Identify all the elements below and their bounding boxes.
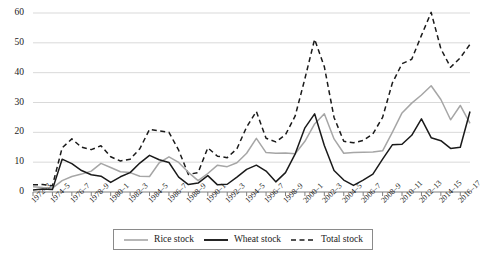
legend-item-wheat-stock: Wheat stock bbox=[203, 235, 281, 245]
line-solid-gray-icon bbox=[123, 236, 149, 244]
legend-label-wheat-stock: Wheat stock bbox=[234, 235, 281, 245]
legend-label-rice-stock: Rice stock bbox=[154, 235, 194, 245]
chart-container: 0102030405060 1972–31974–51976–71978–919… bbox=[0, 0, 483, 255]
legend-item-rice-stock: Rice stock bbox=[123, 235, 194, 245]
series-rice-stock bbox=[33, 86, 470, 188]
series-total-stock bbox=[33, 12, 470, 185]
gridlines bbox=[33, 13, 470, 162]
y-axis-tick-label: 30 bbox=[6, 98, 24, 108]
series-wheat-stock bbox=[33, 111, 470, 189]
legend-item-total-stock: Total stock bbox=[290, 235, 363, 245]
y-axis-tick-label: 40 bbox=[6, 68, 24, 78]
y-axis-tick-label: 50 bbox=[6, 38, 24, 48]
legend-label-total-stock: Total stock bbox=[321, 235, 363, 245]
line-solid-black-icon bbox=[203, 236, 229, 244]
y-axis-tick-label: 20 bbox=[6, 127, 24, 137]
y-axis-tick-label: 60 bbox=[6, 8, 24, 18]
line-dashed-black-icon bbox=[290, 236, 316, 244]
y-axis-tick-label: 0 bbox=[6, 187, 24, 197]
chart-legend: Rice stock Wheat stock Total stock bbox=[113, 229, 373, 250]
y-axis-tick-label: 10 bbox=[6, 157, 24, 167]
line-chart-canvas bbox=[0, 0, 483, 255]
